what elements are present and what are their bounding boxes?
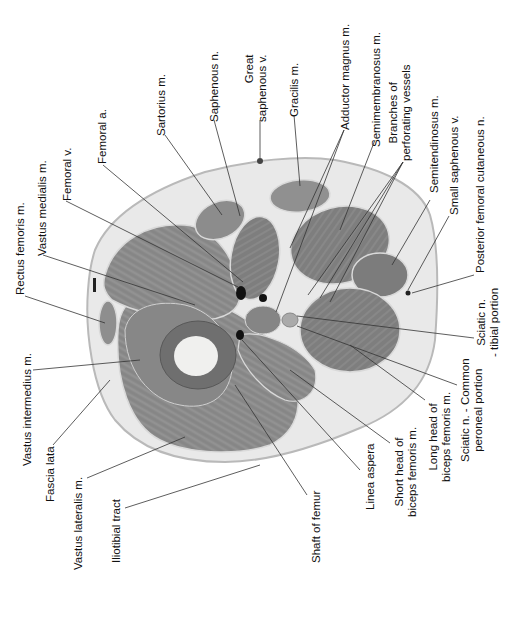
label-short-head-line2: biceps femoris m. [406, 427, 419, 517]
label-femoral-v: Femoral v. [61, 148, 74, 201]
label-sartorius: Sartorius m. [155, 74, 168, 136]
label-sciatic-common-peroneal: Sciatic n. - Common peroneal portion [459, 358, 485, 462]
label-long-head-line2: biceps femoris m. [440, 392, 453, 482]
label-rectus-femoris: Rectus femoris m. [14, 202, 27, 295]
linea-aspera-vessel [236, 330, 244, 340]
sciatic-nerve [282, 313, 298, 327]
label-linea-aspera: Linea aspera [364, 444, 377, 511]
label-great-saphenous-line1: Great [243, 54, 256, 122]
label-small-saphenous: Small saphenous v. [448, 115, 461, 215]
label-long-head-biceps: Long head of biceps femoris m. [427, 392, 453, 482]
label-long-head-line1: Long head of [427, 392, 440, 482]
label-iliotibial-tract: Iliotibial tract [110, 499, 123, 563]
leader-vastus-lateralis [87, 437, 185, 478]
rectus-femoris-muscle [99, 301, 117, 345]
label-short-head-biceps: Short head of biceps femoris m. [393, 427, 419, 517]
label-sciatic-common-line2: peroneal portion [472, 358, 485, 462]
label-fascia-lata: Fascia lata [44, 446, 57, 502]
leader-iliotibial [125, 465, 260, 508]
label-vastus-medialis: Vastus medialis m. [36, 160, 49, 256]
leader-fascia-lata [53, 380, 110, 445]
perforating-vessel [259, 294, 267, 302]
adductor-small-part [245, 306, 281, 334]
label-saphenous-n: Saphenous n. [208, 51, 221, 122]
label-great-saphenous: Great saphenous v. [243, 54, 269, 122]
label-vastus-intermedius: Vastus intermedius m. [21, 353, 34, 466]
label-sciatic-tibial-line1: Sciatic n. [475, 288, 488, 357]
label-branches-perforating: Branches of perforating vessels [387, 64, 413, 161]
label-sciatic-common-line1: Sciatic n. - Common [459, 358, 472, 462]
label-short-head-line1: Short head of [393, 427, 406, 517]
label-branches-line2: perforating vessels [400, 64, 413, 161]
femoral-vessels [236, 286, 246, 300]
label-great-saphenous-line2: saphenous v. [256, 54, 269, 122]
long-head-biceps-muscle [300, 288, 400, 372]
label-shaft-of-femur: Shaft of femur [310, 491, 323, 563]
label-sciatic-tibial-line2: - tibial portion [488, 288, 501, 357]
femur-marrow [174, 336, 218, 376]
label-vastus-lateralis: Vastus lateralis m. [72, 477, 85, 570]
label-femoral-a: Femoral a. [96, 109, 109, 164]
small-saphenous-vein [406, 291, 411, 296]
label-branches-line1: Branches of [387, 64, 400, 161]
label-gracilis: Gracilis m. [288, 63, 301, 117]
label-semimembranosus: Semimembranosus m. [370, 32, 383, 147]
label-posterior-femoral-cutaneous: Posterior femoral cutaneous n. [474, 116, 487, 273]
label-semitendinosus: Semitendinosus m. [428, 95, 441, 193]
great-saphenous-vein [257, 158, 263, 164]
label-sciatic-tibial: Sciatic n. - tibial portion [475, 288, 501, 357]
label-adductor-magnus: Adductor magnus m. [339, 24, 352, 130]
lateral-vessel [93, 278, 96, 292]
